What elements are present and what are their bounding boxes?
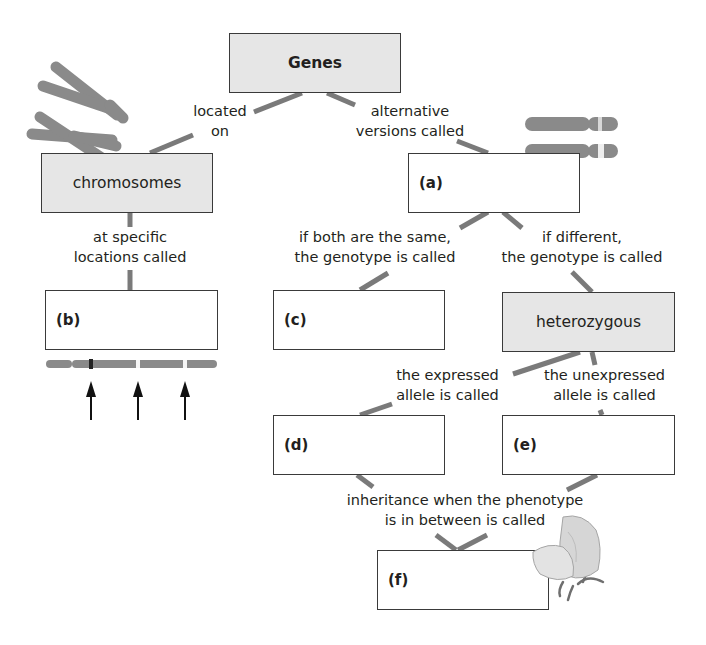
homologous-chromosomes-icon <box>525 117 618 158</box>
link-line: located <box>180 101 260 121</box>
genes-label: Genes <box>230 54 400 72</box>
answer-label-e: (e) <box>513 436 537 454</box>
link-located-on: located on <box>180 101 260 141</box>
link-line: locations called <box>60 247 200 267</box>
link-line: if different, <box>492 227 672 247</box>
link-line: if both are the same, <box>285 227 465 247</box>
chromosomes-node: chromosomes <box>41 153 213 213</box>
answer-label-c: (c) <box>284 311 307 329</box>
heterozygous-node: heterozygous <box>502 292 675 352</box>
link-line: at specific <box>60 227 200 247</box>
answer-label-a: (a) <box>419 174 443 192</box>
answer-box-b[interactable]: (b) <box>45 290 218 350</box>
answer-label-b: (b) <box>56 311 80 329</box>
link-line: allele is called <box>537 385 672 405</box>
link-line: versions called <box>350 121 470 141</box>
link-both-same: if both are the same, the genotype is ca… <box>285 227 465 267</box>
answer-label-d: (d) <box>284 436 308 454</box>
link-expressed: the expressed allele is called <box>385 365 510 405</box>
answer-box-d[interactable]: (d) <box>273 415 445 475</box>
chromosome-pair-icon <box>32 67 123 162</box>
link-line: on <box>180 121 260 141</box>
link-line: the unexpressed <box>537 365 672 385</box>
link-line: allele is called <box>385 385 510 405</box>
locus-arrows <box>86 381 190 420</box>
link-alternative-versions: alternative versions called <box>350 101 470 141</box>
answer-box-f[interactable]: (f) <box>377 550 549 610</box>
answer-box-a[interactable]: (a) <box>408 153 580 213</box>
answer-box-e[interactable]: (e) <box>502 415 675 475</box>
answer-box-c[interactable]: (c) <box>273 290 445 350</box>
link-specific-locations: at specific locations called <box>60 227 200 267</box>
link-unexpressed: the unexpressed allele is called <box>537 365 672 405</box>
link-line: the expressed <box>385 365 510 385</box>
link-if-different: if different, the genotype is called <box>492 227 672 267</box>
chromosomes-label: chromosomes <box>42 174 212 192</box>
answer-label-f: (f) <box>388 571 408 589</box>
heterozygous-label: heterozygous <box>503 313 674 331</box>
chromosome-loci-icon <box>46 359 217 369</box>
link-line: the genotype is called <box>492 247 672 267</box>
link-line: alternative <box>350 101 470 121</box>
genes-node: Genes <box>229 33 401 93</box>
link-line: inheritance when the phenotype <box>330 490 600 510</box>
flower-icon <box>528 512 623 602</box>
concept-map: Genes chromosomes (a) (b) (c) heterozygo… <box>0 0 706 645</box>
link-line: the genotype is called <box>285 247 465 267</box>
